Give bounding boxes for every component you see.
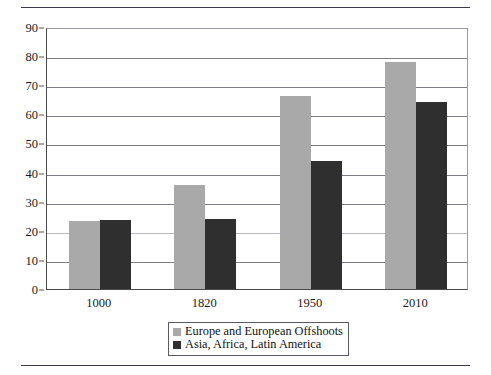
x-axis-tick-label: 1000 xyxy=(86,296,111,311)
bar-group xyxy=(385,29,447,289)
y-axis-tick-label: 0 xyxy=(32,284,38,297)
y-axis-tick-label: 30 xyxy=(26,196,39,209)
y-axis-tick-mark xyxy=(39,202,44,203)
top-divider-rule xyxy=(21,7,470,8)
legend-item-label: Europe and European Offshoots xyxy=(185,325,343,338)
plot-area xyxy=(46,28,468,290)
y-axis: 0102030405060708090 xyxy=(0,28,44,290)
bars-layer xyxy=(47,29,467,289)
y-axis-tick-mark xyxy=(39,231,44,232)
bottom-divider-rule xyxy=(21,365,470,366)
x-axis: 1000182019502010 xyxy=(46,292,468,316)
x-axis-tick-label: 1950 xyxy=(297,296,322,311)
y-axis-tick-mark xyxy=(39,28,44,29)
legend-item-label: Asia, Africa, Latin America xyxy=(185,338,321,351)
y-axis-tick-mark xyxy=(39,173,44,174)
bar xyxy=(311,161,342,289)
y-axis-tick-mark xyxy=(39,260,44,261)
legend-item: Europe and European Offshoots xyxy=(173,325,343,338)
chart-figure: 0102030405060708090 1000182019502010 Eur… xyxy=(0,0,491,375)
bar xyxy=(385,62,416,289)
x-axis-tick-label: 1820 xyxy=(192,296,217,311)
y-axis-tick-label: 80 xyxy=(26,51,39,64)
plot-container: 0102030405060708090 1000182019502010 xyxy=(0,28,491,318)
bar-group xyxy=(69,29,131,289)
bar xyxy=(69,221,100,289)
legend-swatch-icon xyxy=(173,341,181,349)
chart-legend: Europe and European OffshootsAsia, Afric… xyxy=(168,322,349,356)
bar xyxy=(280,96,311,289)
bar-group xyxy=(174,29,236,289)
bar xyxy=(100,220,131,289)
bar xyxy=(205,219,236,289)
y-axis-tick-mark xyxy=(39,86,44,87)
y-axis-tick-label: 90 xyxy=(26,22,39,35)
legend-swatch-icon xyxy=(173,328,181,336)
y-axis-tick-label: 60 xyxy=(26,109,39,122)
y-axis-tick-label: 10 xyxy=(26,255,39,268)
bar xyxy=(174,185,205,289)
y-axis-tick-mark xyxy=(39,57,44,58)
y-axis-tick-mark xyxy=(39,115,44,116)
y-axis-tick-label: 50 xyxy=(26,138,39,151)
x-axis-tick-label: 2010 xyxy=(403,296,428,311)
bar xyxy=(416,102,447,289)
y-axis-tick-mark xyxy=(39,290,44,291)
y-axis-tick-mark xyxy=(39,144,44,145)
y-axis-tick-label: 70 xyxy=(26,80,39,93)
legend-item: Asia, Africa, Latin America xyxy=(173,338,343,351)
y-axis-tick-label: 20 xyxy=(26,226,39,239)
y-axis-tick-label: 40 xyxy=(26,167,39,180)
bar-group xyxy=(280,29,342,289)
